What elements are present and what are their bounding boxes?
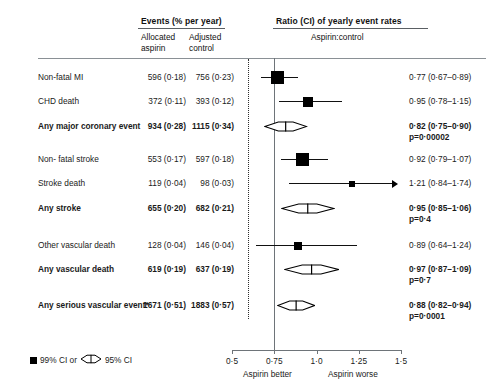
axis-tick-label: 1·5 <box>387 356 415 366</box>
row-label: Non-fatal MI <box>38 72 83 82</box>
result-estimate-ci: 0·89 (0·64–1·24) <box>409 240 471 251</box>
point-estimate-square <box>296 153 309 166</box>
allocated-aspirin-header: Allocatedaspirin <box>141 32 175 53</box>
cell-allocated-aspirin: 128 (0·04) <box>136 240 186 250</box>
result-estimate-ci: 0·95 (0·85–1·06)p=0·4 <box>409 203 471 224</box>
point-estimate-square <box>303 97 313 107</box>
row-label: CHD death <box>38 96 79 106</box>
axis-tick <box>317 350 318 354</box>
reference-line-1 <box>274 58 275 350</box>
cell-adjusted-control: 637 (0·19) <box>184 264 234 274</box>
axis-tick-label: 1·0 <box>303 356 331 366</box>
result-pvalue: p=0·4 <box>409 214 471 225</box>
result-estimate-ci: 0·77 (0·67–0·89) <box>409 72 471 83</box>
result-value: 0·82 (0·75–0·90) <box>409 121 471 131</box>
point-estimate-square <box>294 242 302 250</box>
result-value: 0·92 (0·79–1·07) <box>409 154 471 164</box>
result-value: 0·88 (0·82–0·94) <box>409 300 471 310</box>
cell-adjusted-control: 756 (0·23) <box>184 72 234 82</box>
events-group-header: Events (% per year) <box>141 16 222 26</box>
axis-note-left: Aspirin better <box>243 369 292 379</box>
result-estimate-ci: 0·88 (0·82–0·94)p=0·0001 <box>409 300 471 321</box>
cell-adjusted-control: 1115 (0·34) <box>184 121 234 131</box>
cell-allocated-aspirin: 655 (0·20) <box>136 203 186 213</box>
axis-tick <box>359 350 360 354</box>
result-estimate-ci: 0·82 (0·75–0·90)p=0·00002 <box>409 121 471 142</box>
legend-square-icon <box>30 357 37 364</box>
plot-legend: 99% CI or 95% CI <box>30 354 132 366</box>
axis-tick-label: 0·5 <box>218 356 246 366</box>
confidence-interval-line <box>256 245 357 246</box>
axis-tick <box>401 350 402 354</box>
axis-tick <box>274 350 275 354</box>
row-label: Any vascular death <box>38 264 114 274</box>
result-value: 0·77 (0·67–0·89) <box>409 72 471 82</box>
row-label: Any major coronary event <box>38 121 140 131</box>
ratio-subtitle: Aspirin:control <box>311 32 364 43</box>
result-value: 0·97 (0·87–1·09) <box>409 264 471 274</box>
legend-square-label: 99% CI or <box>40 355 77 365</box>
cell-allocated-aspirin: 619 (0·19) <box>136 264 186 274</box>
row-label: Any stroke <box>38 203 81 213</box>
result-value: 0·95 (0·78–1·15) <box>409 96 471 106</box>
confidence-interval-line <box>289 183 392 184</box>
result-value: 1·21 (0·84–1·74) <box>409 178 471 188</box>
result-estimate-ci: 1·21 (0·84–1·74) <box>409 178 471 189</box>
cell-adjusted-control: 597 (0·18) <box>184 154 234 164</box>
point-estimate-square <box>271 71 284 84</box>
forest-plot-figure: Events (% per year) Allocatedaspirin Adj… <box>0 0 493 388</box>
cell-adjusted-control: 1883 (0·57) <box>184 300 234 310</box>
axis-tick <box>232 350 233 354</box>
result-estimate-ci: 0·97 (0·87–1·09)p=0·7 <box>409 264 471 285</box>
table-top-rule <box>38 58 486 59</box>
cell-adjusted-control: 682 (0·21) <box>184 203 234 213</box>
cell-allocated-aspirin: 372 (0·11) <box>136 96 186 106</box>
cell-adjusted-control: 98 (0·03) <box>184 178 234 188</box>
axis-note-right: Aspirin worse <box>328 369 378 379</box>
cell-allocated-aspirin: 553 (0·17) <box>136 154 186 164</box>
cell-allocated-aspirin: 119 (0·04) <box>136 178 186 188</box>
summary-diamond-marker <box>284 264 339 275</box>
result-pvalue: p=0·7 <box>409 275 471 286</box>
result-pvalue: p=0·0001 <box>409 311 471 322</box>
point-estimate-square <box>349 181 355 187</box>
summary-diamond-marker <box>264 121 307 132</box>
summary-dotted-line <box>248 59 249 319</box>
axis-tick-label: 0·75 <box>260 356 288 366</box>
result-value: 0·89 (0·64–1·24) <box>409 240 471 250</box>
ratio-group-underline <box>273 28 428 29</box>
row-label: Other vascular death <box>38 240 115 250</box>
row-label: Any serious vascular event* <box>38 300 149 310</box>
cell-allocated-aspirin: 934 (0·28) <box>136 121 186 131</box>
ci-arrow-icon <box>392 180 398 188</box>
adjusted-control-header: Adjustedcontrol <box>189 32 221 53</box>
result-pvalue: p=0·00002 <box>409 132 471 143</box>
result-estimate-ci: 0·95 (0·78–1·15) <box>409 96 471 107</box>
events-group-underline <box>138 28 225 29</box>
ratio-group-header: Ratio (CI) of yearly event rates <box>276 16 402 26</box>
summary-diamond-marker <box>277 300 315 311</box>
legend-diamond-label: 95% CI <box>105 355 132 365</box>
cell-adjusted-control: 393 (0·12) <box>184 96 234 106</box>
row-label: Non- fatal stroke <box>38 154 99 164</box>
axis-tick-label: 1·25 <box>345 356 373 366</box>
cell-allocated-aspirin: 596 (0·18) <box>136 72 186 82</box>
summary-diamond-marker <box>281 203 334 214</box>
legend-diamond-icon <box>80 354 102 366</box>
result-estimate-ci: 0·92 (0·79–1·07) <box>409 154 471 165</box>
result-value: 0·95 (0·85–1·06) <box>409 203 471 213</box>
row-label: Stroke death <box>38 178 85 188</box>
cell-allocated-aspirin: 1671 (0·51) <box>136 300 186 310</box>
cell-adjusted-control: 146 (0·04) <box>184 240 234 250</box>
